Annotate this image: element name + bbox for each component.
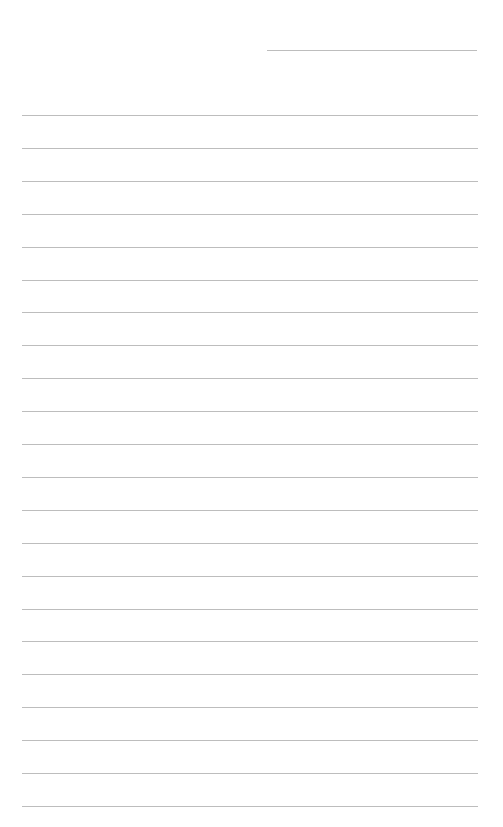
ruled-line <box>22 312 478 313</box>
ruled-line <box>22 214 478 215</box>
ruled-line <box>22 806 478 807</box>
ruled-line <box>22 510 478 511</box>
lined-paper-page <box>0 0 503 827</box>
ruled-line <box>22 115 478 116</box>
ruled-line <box>22 345 478 346</box>
ruled-line <box>22 181 478 182</box>
ruled-line <box>22 707 478 708</box>
date-header-line <box>267 50 477 51</box>
ruled-line <box>22 444 478 445</box>
ruled-line <box>22 773 478 774</box>
ruled-line <box>22 740 478 741</box>
ruled-line <box>22 148 478 149</box>
ruled-line <box>22 543 478 544</box>
ruled-line <box>22 411 478 412</box>
ruled-line <box>22 247 478 248</box>
ruled-line <box>22 609 478 610</box>
ruled-line <box>22 477 478 478</box>
ruled-line <box>22 641 478 642</box>
ruled-line <box>22 280 478 281</box>
ruled-line <box>22 576 478 577</box>
ruled-line <box>22 674 478 675</box>
ruled-line <box>22 378 478 379</box>
